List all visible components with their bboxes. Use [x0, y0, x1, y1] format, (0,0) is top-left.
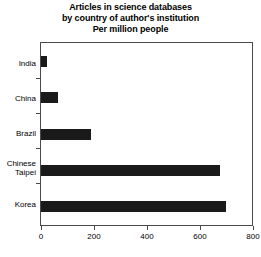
bar-korea [41, 201, 226, 212]
y-axis-label-china: China [0, 94, 36, 103]
chart-title-line-3: Per million people [0, 24, 261, 35]
bar-china [41, 92, 58, 103]
y-axis-label-chinese-taipei-line-1: Chinese [7, 159, 36, 168]
y-axis-tick-2 [36, 113, 40, 114]
y-axis-label-china-line-1: China [15, 94, 36, 103]
y-axis-label-india: India [0, 59, 36, 68]
x-axis-label-600: 600 [185, 232, 215, 241]
x-axis-label-800: 800 [238, 232, 261, 241]
y-axis-tick-4 [36, 183, 40, 184]
bar-chart: Articles in science databases by country… [0, 0, 261, 257]
x-axis-tick-600 [200, 226, 201, 230]
x-axis-label-0: 0 [26, 232, 56, 241]
x-axis-label-200: 200 [79, 232, 109, 241]
chart-title: Articles in science databases by country… [0, 2, 261, 35]
y-axis-tick-1 [36, 78, 40, 79]
bars-layer [41, 43, 253, 225]
bar-india [41, 56, 47, 67]
y-axis-category-labels: India China Brazil Chinese Taipei Korea [0, 42, 36, 226]
y-axis-label-chinese-taipei-line-2: Taipei [0, 168, 36, 177]
y-axis-label-chinese-taipei: Chinese Taipei [0, 159, 36, 177]
y-axis-label-brazil: Brazil [0, 129, 36, 138]
x-axis-tick-800 [253, 226, 254, 230]
x-axis-tick-400 [147, 226, 148, 230]
y-axis-label-korea: Korea [0, 200, 36, 209]
x-axis-tick-0 [41, 226, 42, 230]
bar-chinese-taipei [41, 165, 220, 176]
chart-title-line-1: Articles in science databases [0, 2, 261, 13]
bar-brazil [41, 129, 91, 140]
y-axis-label-india-line-1: India [19, 59, 36, 68]
y-axis-label-brazil-line-1: Brazil [16, 129, 36, 138]
y-axis-label-korea-line-1: Korea [15, 200, 36, 209]
y-axis-tick-3 [36, 148, 40, 149]
x-axis-tick-200 [94, 226, 95, 230]
chart-title-line-2: by country of author's institution [0, 13, 261, 24]
x-axis-label-400: 400 [132, 232, 162, 241]
